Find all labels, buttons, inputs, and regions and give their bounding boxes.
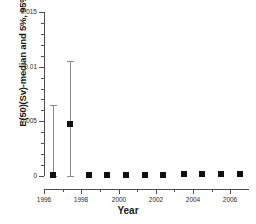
data-point-marker	[86, 172, 92, 178]
y-tick-major	[39, 121, 44, 122]
x-tick-label: 2000	[104, 196, 134, 203]
x-tick-label: 2006	[215, 196, 245, 203]
x-tick-label: 2002	[141, 196, 171, 203]
y-tick-minor	[41, 78, 44, 79]
y-tick-major	[39, 67, 44, 68]
data-point-marker	[181, 171, 187, 177]
y-axis-line	[44, 12, 45, 176]
y-tick-minor	[41, 99, 44, 100]
y-tick-minor	[41, 89, 44, 90]
x-tick-major	[230, 189, 231, 194]
data-point-marker	[218, 171, 224, 177]
x-tick-major	[81, 189, 82, 194]
error-bar-cap-lower	[67, 176, 74, 177]
y-tick-major	[39, 176, 44, 177]
data-point-marker	[199, 171, 205, 177]
x-tick-minor	[100, 189, 101, 192]
error-bar-cap-upper	[67, 61, 74, 62]
y-tick-minor	[41, 34, 44, 35]
x-axis-title: Year	[0, 205, 256, 216]
error-bar-line	[53, 105, 54, 176]
data-point-marker	[237, 171, 243, 177]
x-tick-label: 2004	[178, 196, 208, 203]
data-point-marker	[123, 172, 129, 178]
x-axis-line	[44, 189, 249, 190]
x-tick-label: 1998	[66, 196, 96, 203]
y-tick-label: 0	[6, 172, 37, 179]
y-tick-minor	[41, 56, 44, 57]
x-tick-major	[119, 189, 120, 194]
x-tick-minor	[137, 189, 138, 192]
x-tick-minor	[174, 189, 175, 192]
data-point-marker	[142, 172, 148, 178]
x-tick-major	[156, 189, 157, 194]
data-point-marker	[104, 172, 110, 178]
data-point-marker	[67, 121, 73, 127]
y-tick-minor	[41, 23, 44, 24]
y-tick-minor	[41, 132, 44, 133]
y-tick-minor	[41, 110, 44, 111]
error-bar-cap-upper	[50, 105, 57, 106]
y-tick-label: 0.005	[6, 117, 37, 124]
x-tick-label: 1996	[29, 196, 59, 203]
x-tick-major	[193, 189, 194, 194]
chart-figure: E(50)(Sv)-median and 5%, 95% limits Year…	[0, 0, 256, 224]
error-bar-line	[70, 61, 71, 176]
y-tick-label: 0.015	[6, 8, 37, 15]
y-tick-label: 0.01	[6, 63, 37, 70]
y-tick-minor	[41, 45, 44, 46]
y-tick-minor	[41, 143, 44, 144]
x-tick-minor	[63, 189, 64, 192]
data-point-marker	[50, 172, 56, 178]
data-point-marker	[160, 172, 166, 178]
y-tick-major	[39, 12, 44, 13]
x-tick-major	[44, 189, 45, 194]
y-tick-minor	[41, 165, 44, 166]
y-tick-minor	[41, 154, 44, 155]
x-tick-minor	[212, 189, 213, 192]
